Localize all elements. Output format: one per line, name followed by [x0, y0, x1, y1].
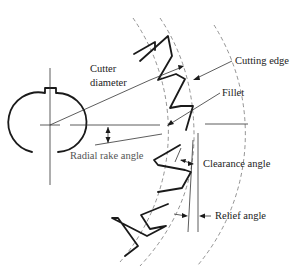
- cutter-teeth: [112, 36, 193, 256]
- relief-angle-label: Relief angle: [215, 210, 266, 221]
- clearance-angle-label: Clearance angle: [203, 158, 271, 169]
- cutter-diameter-label-2: diameter: [90, 77, 127, 88]
- relief-angle-arrow-right: [199, 214, 205, 219]
- clearance-angle-arrow-left: [180, 159, 186, 163]
- clearance-flank-line: [175, 148, 181, 162]
- fillet-label: Fillet: [222, 87, 244, 98]
- cutting-edge-leader: [197, 61, 232, 78]
- clearance-sloped-line: [188, 140, 193, 232]
- milling-cutter-diagram: Cutter diameter Radial rake angle Cuttin…: [0, 0, 302, 275]
- relief-angle-arrow-left: [182, 213, 188, 218]
- radial-rake-arrow-up: [106, 127, 111, 133]
- hub-circle-with-keyway: [8, 88, 86, 152]
- tooth-angle-arrow: [178, 65, 184, 70]
- cutter-diameter-label: Cutter: [90, 63, 117, 74]
- fillet-leader: [170, 93, 220, 124]
- clearance-angle-arrow-right: [188, 161, 194, 166]
- teeth-mid-profile: [154, 145, 191, 192]
- inner-dashed-arc: [140, 18, 194, 266]
- radial-rake-angle-label: Radial rake angle: [70, 150, 144, 161]
- cutting-edge-label: Cutting edge: [235, 55, 289, 66]
- teeth-upper-profile: [140, 36, 193, 130]
- radial-rake-line: [95, 134, 162, 145]
- radial-rake-arrow-down: [106, 137, 111, 143]
- cutter-envelope-circles: [120, 18, 245, 266]
- cutting-edge-arrow: [193, 75, 200, 80]
- teeth-lower-profile: [112, 204, 168, 256]
- tooth-1: [134, 42, 155, 54]
- cutter-hub: [8, 68, 86, 185]
